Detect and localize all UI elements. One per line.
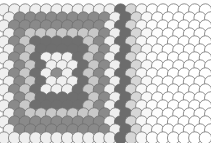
- circle-pattern-canvas: [0, 0, 211, 143]
- scale-circle: [199, 132, 211, 143]
- scale-pattern-figure: [0, 0, 211, 143]
